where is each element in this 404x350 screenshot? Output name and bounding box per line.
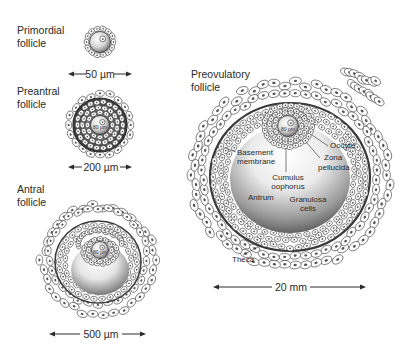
granulosa-cell (278, 244, 285, 249)
preovulatory-scale-label: 20 mm (275, 281, 307, 293)
granulosa-cell (211, 181, 216, 188)
antral-follicle-drawing: 80 µm (36, 200, 160, 319)
cumulus-cell (299, 123, 304, 129)
preovulatory-scale-bar: 20 mm (213, 281, 366, 293)
theca-cell (98, 312, 108, 319)
antral-follicle: Antral follicle 80 µm 500 µm (17, 183, 160, 340)
granulosa-cell (362, 166, 367, 173)
primordial-follicle-drawing (84, 25, 116, 58)
preantral-scale-bar: 200 µm (68, 161, 132, 173)
preovulatory-label-line1: Preovulatory (191, 68, 251, 80)
theca-cell (278, 81, 291, 90)
antral-scale-label: 500 µm (83, 328, 118, 340)
primordial-label-line2: follicle (17, 37, 46, 49)
granulosa-cell (120, 122, 125, 128)
theca-cell (290, 89, 301, 97)
theca-cell (128, 121, 134, 130)
granulosa-cell (97, 135, 103, 140)
oocyte (90, 32, 111, 53)
theca-cell (126, 130, 134, 140)
granulosa-cell (216, 177, 221, 184)
granulosa-cell (352, 166, 357, 172)
cumulus-cell (304, 120, 309, 126)
theca-cell (143, 256, 150, 266)
label-zona-line1: Zona (324, 153, 343, 162)
granulosa-cell (363, 189, 369, 196)
theca-cell (76, 309, 88, 319)
preantral-follicle: Preantral follicle 80 µm 200 µm (17, 85, 134, 173)
theca-cell (289, 77, 302, 85)
oocyte: 80 µm (91, 116, 110, 135)
granulosa-cell (358, 177, 363, 184)
granulosa-cell (63, 262, 68, 269)
oocyte-nucleolus (102, 38, 104, 40)
preovulatory-label-line2: follicle (191, 81, 220, 93)
arrow-right-icon (140, 332, 146, 337)
granulosa-cell (94, 100, 100, 105)
theca-cell (153, 255, 160, 266)
granulosa-cell (90, 222, 97, 227)
preovulatory-follicle: Preovulatory follicle 80 µm Oocyte Zona … (187, 66, 396, 293)
antral-label-line1: Antral (17, 183, 44, 195)
primordial-scale-bar: 50 µm (68, 68, 132, 80)
zona-pellucida (90, 32, 111, 53)
arrow-left-icon (213, 285, 219, 290)
granulosa-cell (75, 122, 80, 128)
preovulatory-follicle-drawing: 80 µm (187, 66, 396, 270)
antral-label-line2: follicle (17, 196, 46, 208)
cumulus-cell (97, 259, 103, 264)
preantral-scale-label: 200 µm (83, 161, 118, 173)
oocyte-size-label: 80 µm (281, 126, 295, 132)
label-zona-line2: pellucida (318, 163, 350, 172)
theca-cell (65, 120, 71, 129)
theca-cell (65, 110, 74, 120)
granulosa-cell (94, 145, 100, 150)
arrow-left-icon (68, 72, 74, 77)
antral-scale-bar: 500 µm (49, 328, 146, 340)
label-antrum: Antrum (248, 193, 274, 202)
theca-cell (148, 264, 157, 276)
arrow-left-icon (49, 332, 55, 337)
arrow-right-icon (126, 72, 132, 77)
theca-cell (299, 89, 312, 99)
granulosa-cell (110, 122, 115, 128)
arrow-left-icon (68, 165, 74, 170)
theca-cell (87, 310, 98, 318)
oocyte-size-label: 80 µm (93, 124, 107, 130)
label-granulosa-line2: cells (300, 204, 316, 213)
granulosa-cell (100, 145, 106, 150)
label-basement-line1: Basement (237, 148, 274, 157)
label-granulosa-line1: Granulosa (290, 195, 327, 204)
preantral-label-line1: Preantral (17, 85, 60, 97)
theca-cell (105, 90, 115, 98)
theca-cell (268, 252, 281, 262)
granulosa-cell (97, 110, 103, 114)
oocyte-size-label: 80 µm (93, 249, 107, 255)
theca-cell (268, 79, 280, 87)
theca-cell (143, 246, 149, 255)
oocyte-nucleolus (102, 122, 104, 124)
granulosa-cell (90, 296, 97, 301)
arrow-right-icon (126, 165, 132, 170)
granulosa-cell (287, 233, 293, 238)
theca-cell (46, 256, 54, 266)
primordial-label-line1: Primordial (17, 24, 64, 36)
granulosa-cell (224, 166, 229, 172)
label-oocyte: Oocyte (330, 141, 356, 150)
label-cumulus-line1: Cumulus (272, 173, 304, 182)
theca-cell (108, 308, 120, 318)
oocyte: 80 µm (92, 242, 109, 259)
theca-cell (372, 164, 381, 176)
label-cumulus-line2: oophorus (271, 182, 304, 191)
theca-cell (279, 89, 291, 98)
theca-cell (268, 89, 281, 99)
theca-cell (141, 236, 149, 246)
theca-cell (258, 258, 271, 267)
cumulus-cell (109, 247, 114, 253)
label-basement-line2: membrane (237, 157, 276, 166)
primordial-follicle: Primordial follicle 50 µm (17, 24, 132, 80)
arrow-right-icon (360, 285, 366, 290)
theca-cell (279, 253, 290, 261)
cumulus-cell (272, 123, 277, 129)
granulosa-cell (213, 189, 219, 197)
